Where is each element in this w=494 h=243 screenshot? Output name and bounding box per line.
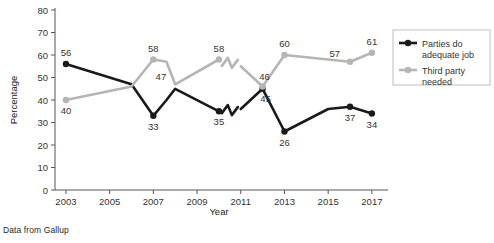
x-tick-label: 2015 [318, 196, 339, 207]
data-point-marker [216, 108, 222, 114]
data-point-value-label: 37 [345, 112, 356, 123]
legend: Parties doadequate jobThird partyneeded [393, 30, 490, 87]
y-tick-label: 80 [37, 5, 48, 16]
data-point-value-label: 45 [260, 93, 271, 104]
data-point-marker [281, 52, 287, 58]
data-point-value-label: 47 [156, 71, 167, 82]
legend-marker-swatch [405, 40, 411, 46]
y-axis: 01020304050607080 [37, 5, 55, 196]
x-tick-label: 2009 [186, 196, 207, 207]
data-point-value-label: 40 [61, 105, 72, 116]
data-point-value-label: 33 [148, 121, 159, 132]
legend-marker-swatch [405, 67, 411, 73]
y-tick-label: 30 [37, 117, 48, 128]
x-tick-label: 2007 [143, 196, 164, 207]
legend-label-line2: needed [422, 77, 452, 87]
data-point-marker [369, 110, 375, 116]
line-chart: 01020304050607080 2003200520072009201120… [0, 0, 494, 243]
data-point-marker [216, 56, 222, 62]
legend-label-line1: Parties do [422, 39, 463, 49]
x-tick-label: 2013 [274, 196, 295, 207]
data-point-marker [150, 56, 156, 62]
data-point-value-label: 26 [279, 137, 290, 148]
data-point-marker [63, 97, 69, 103]
y-tick-label: 60 [37, 50, 48, 61]
y-tick-label: 10 [37, 162, 48, 173]
y-axis-title: Percentage [8, 76, 19, 125]
data-point-value-label: 58 [148, 43, 159, 54]
data-point-value-label: 57 [329, 48, 340, 59]
data-point-marker [369, 50, 375, 56]
x-tick-label: 2003 [55, 196, 76, 207]
x-axis-title: Year [209, 206, 228, 217]
x-tick-label: 2011 [231, 196, 251, 207]
data-point-value-label: 61 [367, 36, 378, 47]
y-tick-label: 40 [37, 95, 48, 106]
data-point-marker [347, 104, 353, 110]
legend-label-line1: Third party [422, 66, 466, 76]
legend-label-line2: adequate job [422, 50, 474, 60]
y-tick-label: 50 [37, 72, 48, 83]
source-note: Data from Gallup [3, 225, 69, 235]
y-tick-label: 0 [43, 185, 48, 196]
data-point-marker [281, 128, 287, 134]
data-point-value-label: 60 [279, 38, 290, 49]
x-tick-label: 2005 [99, 196, 120, 207]
data-point-value-label: 56 [61, 47, 72, 58]
data-point-marker [63, 61, 69, 67]
y-tick-label: 20 [37, 140, 48, 151]
data-point-value-label: 46 [259, 71, 270, 82]
x-tick-label: 2017 [361, 196, 382, 207]
data-point-marker [150, 113, 156, 119]
chart-canvas: 01020304050607080 2003200520072009201120… [0, 0, 494, 243]
x-axis: 20032005200720092011201320152017 [55, 190, 388, 207]
data-point-value-label: 35 [214, 116, 225, 127]
data-point-marker [259, 83, 265, 89]
data-point-marker [347, 59, 353, 65]
data-point-value-label: 58 [214, 43, 225, 54]
series-line [66, 60, 219, 101]
y-tick-label: 70 [37, 27, 48, 38]
data-point-value-label: 34 [367, 119, 378, 130]
